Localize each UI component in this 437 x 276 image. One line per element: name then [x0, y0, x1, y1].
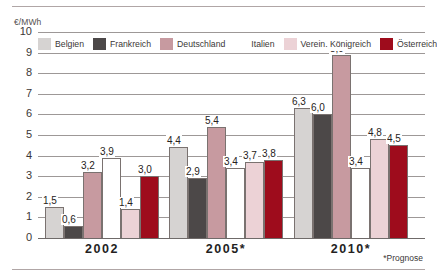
legend-item-label: Deutschland: [177, 39, 225, 49]
legend-item-label: Italien: [251, 39, 274, 49]
y-axis-tick-label: 2: [10, 190, 32, 202]
y-axis-tick-label: 5: [10, 128, 32, 140]
x-axis: 20022005*2010*: [38, 242, 425, 260]
legend-swatch-icon: [284, 38, 297, 50]
x-axis-tick-label: 2005*: [206, 242, 247, 256]
gridline: [38, 238, 425, 239]
y-axis-tick-label: 9: [10, 46, 32, 58]
legend-swatch-icon: [93, 38, 106, 50]
legend-swatch-icon: [38, 38, 51, 50]
y-axis: 109876543210: [38, 32, 425, 238]
footnote-prognose: *Prognose: [383, 253, 423, 263]
legend-item-label: Belgien: [55, 39, 84, 49]
x-axis-tick-label: 2002: [85, 242, 119, 256]
chart-legend: BelgienFrankreichDeutschlandItalienVerei…: [38, 36, 425, 51]
legend-item[interactable]: Italien: [234, 38, 274, 50]
legend-item-label: Verein. Königreich: [301, 39, 372, 49]
legend-item[interactable]: Belgien: [38, 38, 84, 50]
legend-item[interactable]: Frankreich: [93, 38, 151, 50]
top-divider-rule: [12, 6, 425, 7]
legend-swatch-icon: [160, 38, 173, 50]
y-axis-tick-label: 3: [10, 169, 32, 181]
legend-item[interactable]: Deutschland: [160, 38, 225, 50]
y-axis-tick-label: 10: [10, 25, 32, 37]
bottom-divider-rule: [12, 269, 425, 270]
y-axis-tick-label: 6: [10, 107, 32, 119]
y-axis-tick-label: 0: [10, 231, 32, 243]
y-axis-tick-label: 1: [10, 210, 32, 222]
y-axis-tick-label: 7: [10, 87, 32, 99]
legend-item[interactable]: Österreich: [380, 38, 437, 50]
x-axis-tick-label: 2010*: [331, 242, 372, 256]
legend-swatch-icon: [380, 38, 393, 50]
legend-item[interactable]: Verein. Königreich: [284, 38, 372, 50]
legend-item-label: Frankreich: [110, 39, 151, 49]
legend-item-label: Österreich: [397, 39, 437, 49]
y-axis-tick-label: 4: [10, 149, 32, 161]
legend-swatch-icon: [234, 38, 247, 50]
y-axis-tick-label: 8: [10, 66, 32, 78]
